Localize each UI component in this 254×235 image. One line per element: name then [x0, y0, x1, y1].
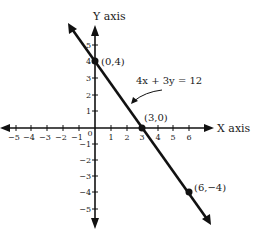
svg-text:−2: −2 — [55, 133, 67, 142]
y-axis-down-arrow-icon — [91, 218, 99, 229]
svg-text:−3: −3 — [79, 172, 91, 181]
svg-text:−5: −5 — [8, 133, 20, 142]
equation-label: 4x + 3y = 12 — [136, 75, 202, 86]
point-label-3-0: (3,0) — [144, 112, 168, 123]
point-label-6-neg4: (6,−4) — [194, 182, 226, 193]
svg-text:2: 2 — [124, 133, 129, 142]
equation-pointer — [134, 90, 162, 101]
svg-text:−1: −1 — [79, 140, 91, 149]
svg-text:6: 6 — [186, 133, 191, 142]
svg-text:−5: −5 — [79, 205, 91, 214]
equation-pointer-arrow-icon — [131, 97, 138, 104]
svg-text:1: 1 — [86, 107, 91, 116]
point-label-0-4: (0,4) — [101, 56, 125, 67]
svg-text:3: 3 — [139, 133, 144, 142]
svg-text:−2: −2 — [79, 156, 91, 165]
svg-text:3: 3 — [86, 74, 91, 83]
point-0-4 — [92, 58, 99, 65]
svg-text:−4: −4 — [23, 133, 35, 142]
svg-text:1: 1 — [108, 133, 113, 142]
svg-text:−4: −4 — [79, 188, 91, 197]
x-tick-labels: −5 −4 −3 −2 −1 0 1 2 3 4 5 6 — [8, 129, 191, 142]
y-axis-up-arrow-icon — [91, 25, 99, 36]
x-axis-title: X axis — [217, 122, 251, 135]
svg-text:−3: −3 — [39, 133, 51, 142]
coordinate-plane: −5 −4 −3 −2 −1 0 1 2 3 4 5 6 1 2 3 4 5 −… — [0, 0, 254, 235]
svg-text:5: 5 — [170, 133, 175, 142]
x-axis — [0, 124, 214, 132]
svg-text:0: 0 — [87, 129, 92, 138]
svg-text:4: 4 — [155, 133, 160, 142]
x-axis-left-arrow-icon — [0, 124, 10, 132]
point-6-neg4 — [186, 189, 193, 196]
y-axis-title: Y axis — [92, 10, 126, 23]
svg-text:2: 2 — [86, 91, 91, 100]
point-3-0 — [139, 125, 146, 132]
x-axis-right-arrow-icon — [204, 124, 214, 132]
svg-text:4: 4 — [86, 57, 91, 66]
